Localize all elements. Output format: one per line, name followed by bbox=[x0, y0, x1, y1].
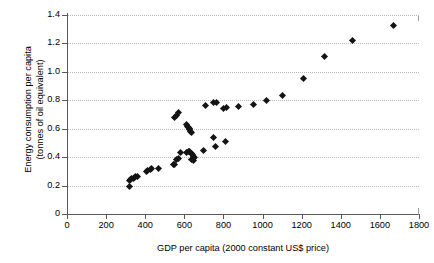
x-axis-tick bbox=[419, 214, 420, 219]
data-point bbox=[300, 75, 307, 82]
y-axis-tick-label: 0 bbox=[20, 209, 60, 218]
data-point bbox=[349, 37, 356, 44]
x-axis-tick bbox=[223, 214, 224, 219]
x-axis-tick-label: 1800 bbox=[399, 221, 434, 230]
chart-figure: Energy consumption per capita (tonnes of… bbox=[0, 0, 434, 263]
x-axis-tick-label: 200 bbox=[86, 221, 126, 230]
y-axis-tick-label: 0.2 bbox=[20, 181, 60, 190]
y-axis-tick-label: 0.8 bbox=[20, 95, 60, 104]
x-axis-tick bbox=[263, 214, 264, 219]
plot-area bbox=[67, 15, 419, 214]
x-axis-tick-label: 1000 bbox=[243, 221, 283, 230]
data-point bbox=[200, 147, 207, 154]
data-point bbox=[250, 101, 257, 108]
data-point bbox=[235, 103, 242, 110]
x-axis-tick-label: 1400 bbox=[321, 221, 361, 230]
x-axis-tick bbox=[145, 214, 146, 219]
x-axis-tick bbox=[302, 214, 303, 219]
x-axis-tick-label: 0 bbox=[47, 221, 87, 230]
data-point bbox=[263, 97, 270, 104]
data-point bbox=[155, 165, 162, 172]
x-axis-label: GDP per capita (2000 constant US$ price) bbox=[67, 243, 419, 253]
data-point bbox=[212, 143, 219, 150]
data-point bbox=[126, 183, 133, 190]
x-axis-tick bbox=[184, 214, 185, 219]
data-point bbox=[390, 22, 397, 29]
y-axis-tick-label: 1.4 bbox=[20, 10, 60, 19]
x-axis-tick-label: 400 bbox=[125, 221, 165, 230]
x-axis-line bbox=[66, 214, 420, 215]
x-axis-tick-label: 600 bbox=[164, 221, 204, 230]
y-axis-tick-label: 1.2 bbox=[20, 38, 60, 47]
data-point bbox=[202, 102, 209, 109]
data-point bbox=[222, 138, 229, 145]
data-point bbox=[321, 53, 328, 60]
x-axis-tick bbox=[106, 214, 107, 219]
x-axis-tick-label: 1200 bbox=[282, 221, 322, 230]
y-axis-tick-label: 1.0 bbox=[20, 67, 60, 76]
x-axis-tick bbox=[341, 214, 342, 219]
y-axis-tick-label: 0.4 bbox=[20, 152, 60, 161]
x-axis-tick-label: 800 bbox=[203, 221, 243, 230]
x-axis-tick bbox=[380, 214, 381, 219]
y-axis-tick-label: 0.6 bbox=[20, 124, 60, 133]
data-point bbox=[279, 92, 286, 99]
x-axis-tick-label: 1600 bbox=[360, 221, 400, 230]
data-point bbox=[210, 134, 217, 141]
data-point bbox=[188, 129, 195, 136]
x-axis-tick bbox=[67, 214, 68, 219]
